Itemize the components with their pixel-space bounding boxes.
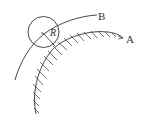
diagram: B A R <box>0 0 146 126</box>
circle-center <box>41 32 43 34</box>
surface-hatching <box>33 31 116 113</box>
surface-a <box>35 32 123 114</box>
label-a: A <box>126 33 134 45</box>
label-b: B <box>98 10 105 22</box>
label-r: R <box>49 27 56 38</box>
curve-b <box>15 15 97 80</box>
